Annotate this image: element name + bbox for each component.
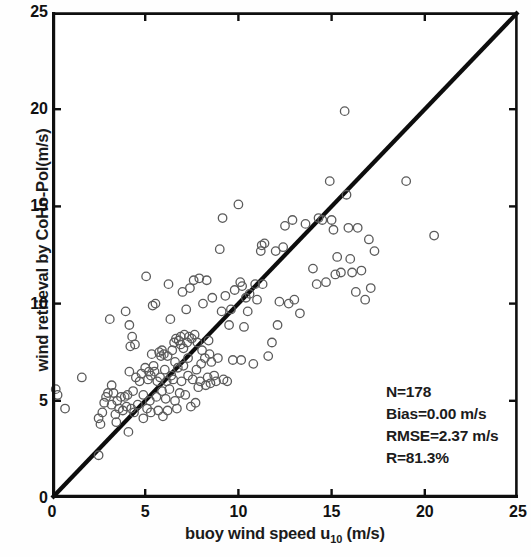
x-tick-label: 5 <box>125 504 165 520</box>
stat-correlation: R=81.3% <box>386 447 498 469</box>
scatter-plot-figure: wind retrieval by CoHo-Pol(m/s) 05101520… <box>0 0 531 557</box>
x-axis-label-unit: (m/s) <box>342 524 385 542</box>
x-axis-label-subscript: 10 <box>330 533 342 545</box>
plot-area <box>0 0 531 557</box>
x-tick-label: 0 <box>32 504 72 520</box>
x-axis-label: buoy wind speed u10 (m/s) <box>52 524 518 545</box>
statistics-annotation: N=178 Bias=0.00 m/s RMSE=2.37 m/s R=81.3… <box>386 381 498 469</box>
stat-n: N=178 <box>386 381 498 403</box>
stat-rmse: RMSE=2.37 m/s <box>386 425 498 447</box>
stat-bias: Bias=0.00 m/s <box>386 403 498 425</box>
x-tick-label: 25 <box>498 504 531 520</box>
x-tick-label: 10 <box>218 504 258 520</box>
x-axis-label-main: buoy wind speed u <box>185 524 330 542</box>
x-tick-label: 15 <box>312 504 352 520</box>
x-tick-label: 20 <box>405 504 445 520</box>
